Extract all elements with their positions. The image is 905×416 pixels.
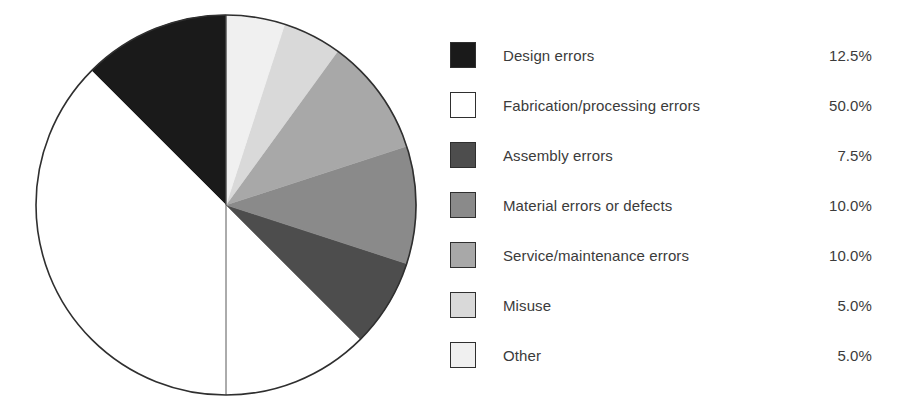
legend-item-value: 5.0% [810,347,872,364]
legend-item-label: Service/maintenance errors [503,247,810,264]
legend-item[interactable]: Assembly errors7.5% [450,130,875,180]
legend-item-value: 50.0% [810,97,872,114]
pie-chart-area [0,0,440,416]
legend-item-value: 5.0% [810,297,872,314]
legend-item[interactable]: Other5.0% [450,330,875,380]
legend-swatch-icon [450,92,476,118]
legend-swatch-icon [450,292,476,318]
legend-swatch-icon [450,142,476,168]
legend-item[interactable]: Misuse5.0% [450,280,875,330]
legend-item-value: 10.0% [810,247,872,264]
legend-item-label: Assembly errors [503,147,810,164]
legend-item[interactable]: Material errors or defects10.0% [450,180,875,230]
pie-chart-svg [0,0,440,416]
legend-item[interactable]: Design errors12.5% [450,30,875,80]
legend-item[interactable]: Service/maintenance errors10.0% [450,230,875,280]
legend-item-value: 7.5% [810,147,872,164]
chart-legend: Design errors12.5%Fabrication/processing… [450,30,875,380]
legend-item[interactable]: Fabrication/processing errors50.0% [450,80,875,130]
legend-item-label: Other [503,347,810,364]
legend-item-label: Fabrication/processing errors [503,97,810,114]
legend-swatch-icon [450,192,476,218]
legend-swatch-icon [450,42,476,68]
legend-item-label: Material errors or defects [503,197,810,214]
legend-item-label: Misuse [503,297,810,314]
legend-item-value: 10.0% [810,197,872,214]
legend-swatch-icon [450,242,476,268]
pie-chart-figure: Design errors12.5%Fabrication/processing… [0,0,905,416]
legend-swatch-icon [450,342,476,368]
legend-item-value: 12.5% [810,47,872,64]
legend-item-label: Design errors [503,47,810,64]
